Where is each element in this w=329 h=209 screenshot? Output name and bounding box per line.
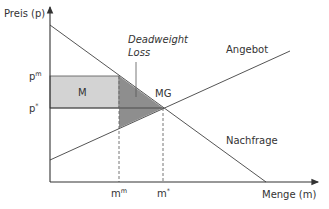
deadweight-label-line1: Deadweight <box>128 34 189 45</box>
monopoly-price-label: pm <box>29 70 42 82</box>
equilibrium-quantity-label: m* <box>157 187 171 199</box>
demand-label: Nachfrage <box>226 135 278 146</box>
equilibrium-price-label: p* <box>29 102 39 114</box>
area-mg-label: MG <box>155 88 171 99</box>
monopoly-deadweight-diagram: Preis (p) Menge (m) Angebot Nachfrage De… <box>0 0 329 209</box>
supply-label: Angebot <box>226 44 268 55</box>
x-axis-label: Menge (m) <box>262 189 316 200</box>
y-axis-label: Preis (p) <box>4 8 45 19</box>
area-m-label: M <box>78 87 87 98</box>
monopoly-quantity-label: mm <box>111 187 127 199</box>
deadweight-label-line2: Loss <box>128 47 150 58</box>
